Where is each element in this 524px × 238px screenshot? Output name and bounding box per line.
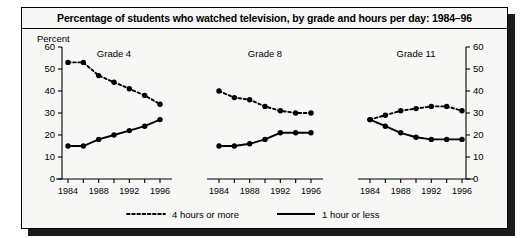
data-point-marker: [247, 141, 252, 146]
figure-shadow-bottom: [28, 229, 515, 236]
chart-panel-3: Grade 111984198819921996: [358, 48, 474, 196]
y-axis-right-tick-label: 60: [473, 41, 484, 52]
chart-panel-2: Grade 81984198819921996: [207, 48, 323, 196]
x-axis-tick-label: 1984: [58, 186, 78, 196]
y-axis-left-tick-label: 30: [44, 107, 55, 118]
chart-title-bar: Percentage of students who watched telev…: [22, 8, 507, 29]
data-point-marker: [459, 108, 464, 113]
y-axis-right-tick-label: 50: [473, 63, 484, 74]
data-point-marker: [247, 97, 252, 102]
y-axis-right-tick-label: 40: [473, 85, 484, 96]
data-point-marker: [96, 73, 101, 78]
data-point-marker: [413, 106, 418, 111]
chart-title: Percentage of students who watched telev…: [57, 12, 472, 24]
data-point-marker: [142, 124, 147, 129]
data-point-marker: [232, 143, 237, 148]
legend-label-solid: 1 hour or less: [322, 209, 380, 220]
plot-area: 01020304050600102030405060Grade 41984198…: [22, 29, 507, 230]
y-axis-right-tick-label: 10: [473, 151, 484, 162]
data-point-marker: [429, 104, 434, 109]
y-axis-right-tick-label: 20: [473, 129, 484, 140]
panel-title: Grade 11: [397, 48, 436, 59]
data-point-marker: [81, 60, 86, 65]
data-point-marker: [444, 104, 449, 109]
legend-label-dotted: 4 hours or more: [172, 209, 239, 220]
data-point-marker: [142, 93, 147, 98]
data-point-marker: [383, 124, 388, 129]
data-point-marker: [262, 104, 267, 109]
x-axis-tick-label: 1996: [150, 186, 170, 196]
data-point-marker: [262, 137, 267, 142]
chart-figure: Percentage of students who watched telev…: [0, 0, 524, 238]
data-point-marker: [308, 130, 313, 135]
chart-legend: 4 hours or more1 hour or less: [127, 209, 380, 220]
x-axis-tick-label: 1992: [421, 186, 441, 196]
x-axis-tick-label: 1988: [89, 186, 109, 196]
x-axis-tick-label: 1996: [301, 186, 321, 196]
x-axis-tick-label: 1984: [360, 186, 380, 196]
y-axis-left-tick-label: 20: [44, 129, 55, 140]
figure-shadow-right: [508, 14, 515, 236]
data-point-marker: [293, 110, 298, 115]
data-point-marker: [293, 130, 298, 135]
y-axis-left-tick-label: 50: [44, 63, 55, 74]
y-axis-left-tick-label: 10: [44, 151, 55, 162]
data-point-marker: [398, 108, 403, 113]
x-axis-tick-label: 1992: [270, 186, 290, 196]
data-point-marker: [278, 130, 283, 135]
data-point-marker: [65, 143, 70, 148]
data-point-marker: [111, 132, 116, 137]
data-point-marker: [459, 137, 464, 142]
y-axis-left-tick-label: 40: [44, 85, 55, 96]
data-point-marker: [111, 80, 116, 85]
x-axis-tick-label: 1992: [119, 186, 139, 196]
chart-panel-1: Grade 41984198819921996: [56, 48, 172, 196]
data-point-marker: [127, 128, 132, 133]
data-point-marker: [429, 137, 434, 142]
data-point-marker: [383, 113, 388, 118]
data-point-marker: [444, 137, 449, 142]
data-point-marker: [216, 88, 221, 93]
data-point-marker: [232, 95, 237, 100]
x-axis-tick-label: 1988: [240, 186, 260, 196]
data-point-marker: [367, 117, 372, 122]
y-axis-left-tick-label: 60: [44, 41, 55, 52]
data-point-marker: [398, 130, 403, 135]
x-axis-tick-label: 1996: [452, 186, 472, 196]
data-point-marker: [96, 137, 101, 142]
data-point-marker: [65, 60, 70, 65]
chart-svg: 01020304050600102030405060Grade 41984198…: [22, 29, 506, 230]
data-point-marker: [413, 135, 418, 140]
panel-title: Grade 4: [97, 48, 131, 59]
data-point-marker: [308, 110, 313, 115]
y-axis-left-tick-label: 0: [50, 173, 55, 184]
data-point-marker: [278, 108, 283, 113]
data-point-marker: [157, 117, 162, 122]
series-line: [219, 91, 311, 113]
y-axis-right-tick-label: 30: [473, 107, 484, 118]
data-point-marker: [127, 86, 132, 91]
data-point-marker: [216, 143, 221, 148]
x-axis-tick-label: 1984: [209, 186, 229, 196]
panel-title: Grade 8: [248, 48, 282, 59]
x-axis-tick-label: 1988: [391, 186, 411, 196]
chart-frame: Percentage of students who watched telev…: [21, 7, 508, 229]
data-point-marker: [81, 143, 86, 148]
data-point-marker: [157, 102, 162, 107]
